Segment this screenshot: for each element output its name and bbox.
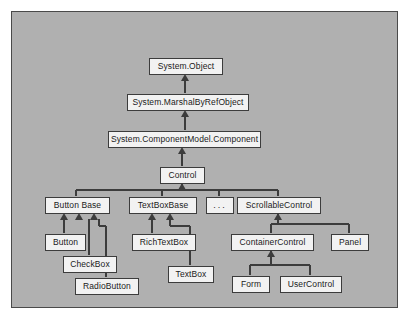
class-node-label: TextBox [176,270,207,279]
class-node-scrollablecontrol[interactable]: ScrollableControl [237,197,321,214]
diagram-page: System.ObjectSystem.MarshalByRefObjectSy… [0,0,414,327]
arrowhead-scrollablecontrol [274,213,282,220]
class-node-label: Form [241,280,261,289]
diagram-canvas: System.ObjectSystem.MarshalByRefObjectSy… [11,11,398,308]
class-node-label: UserControl [288,280,334,289]
arrowhead-buttonbase-radiobutton [90,213,98,220]
class-node-label: System.Object [158,62,215,70]
class-node-label: CheckBox [70,260,110,269]
class-node-textboxbase[interactable]: TextBoxBase [129,197,197,214]
class-node-label: ContainerControl [240,238,306,247]
class-node-form[interactable]: Form [232,276,270,293]
arrowhead-control [178,183,186,190]
arrowhead-buttonbase-checkbox [75,213,83,220]
arrowhead-marshalbyrefobject [181,110,189,117]
class-node-label: RichTextBox [140,238,188,247]
class-node-control[interactable]: Control [160,167,205,184]
arrowhead-buttonbase-button [60,213,68,220]
class-node-richtextbox[interactable]: RichTextBox [132,234,196,251]
class-node-ellipsis[interactable]: ... [206,197,234,214]
class-node-textbox[interactable]: TextBox [168,266,214,283]
class-node-component[interactable]: System.ComponentModel.Component [108,131,261,148]
arrowhead-component [178,147,186,154]
class-node-label: RadioButton [83,282,131,291]
arrowhead-system-object [181,74,189,81]
class-node-radiobutton[interactable]: RadioButton [75,278,139,295]
class-node-label: System.ComponentModel.Component [111,135,258,144]
class-node-label: Control [168,171,196,180]
class-node-marshalbyrefobject[interactable]: System.MarshalByRefObject [127,94,249,111]
class-node-button[interactable]: Button [45,234,86,251]
arrowhead-textboxbase-richtextbox [148,213,156,220]
class-node-containercontrol[interactable]: ContainerControl [231,234,314,251]
class-node-label: Button [53,238,78,247]
class-node-label: ... [213,201,227,210]
arrowhead-containercontrol [267,250,275,257]
arrowhead-textboxbase-textbox [166,213,174,220]
class-node-label: Panel [339,238,361,247]
class-node-buttonbase[interactable]: Button Base [45,197,110,214]
class-node-label: ScrollableControl [246,201,312,210]
class-node-label: TextBoxBase [138,201,189,210]
class-node-usercontrol[interactable]: UserControl [280,276,342,293]
class-node-label: Button Base [54,201,101,210]
class-node-system-object[interactable]: System.Object [149,58,223,75]
class-node-label: System.MarshalByRefObject [132,98,243,107]
class-node-checkbox[interactable]: CheckBox [63,256,117,273]
class-node-panel[interactable]: Panel [331,234,369,251]
